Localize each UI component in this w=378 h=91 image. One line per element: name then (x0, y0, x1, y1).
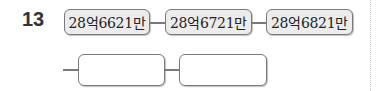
connector-line (165, 69, 179, 71)
connector-line (150, 22, 165, 24)
answer-box-1[interactable] (78, 54, 165, 86)
connector-line (252, 22, 266, 24)
answer-box-2[interactable] (179, 54, 267, 86)
problem-number: 13 (22, 8, 44, 31)
sequence-box-3: 28억6821만 (266, 9, 353, 35)
page-divider (370, 0, 371, 91)
sequence-box-1: 28억6621만 (64, 9, 150, 35)
connector-line (63, 69, 78, 71)
sequence-box-2: 28억6721만 (165, 9, 252, 35)
